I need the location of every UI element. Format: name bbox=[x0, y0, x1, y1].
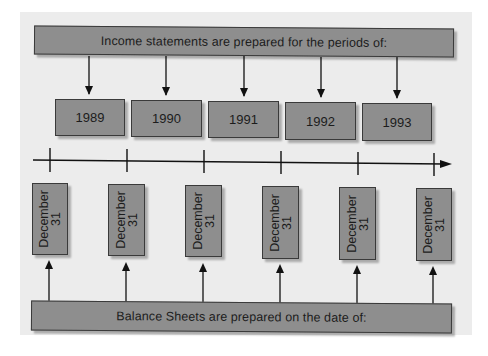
date-box-3: December31 bbox=[185, 185, 222, 257]
balance-arrows bbox=[45, 260, 437, 306]
date-box-4: December31 bbox=[262, 186, 299, 259]
income-arrows bbox=[85, 56, 401, 99]
period-label: 1991 bbox=[229, 112, 258, 127]
income-statements-label: Income statements are prepared for the p… bbox=[101, 34, 387, 50]
period-box-1990: 1990 bbox=[131, 100, 202, 137]
date-label: December31 bbox=[422, 196, 446, 254]
period-label: 1989 bbox=[76, 110, 105, 125]
period-box-1992: 1992 bbox=[285, 102, 356, 140]
date-label: December31 bbox=[38, 190, 62, 248]
period-box-1991: 1991 bbox=[208, 101, 279, 138]
balance-sheets-label: Balance Sheets are prepared on the date … bbox=[116, 309, 366, 325]
date-box-2: December31 bbox=[108, 184, 145, 256]
date-box-6: December31 bbox=[416, 188, 452, 261]
date-box-1: December31 bbox=[32, 183, 68, 255]
date-box-5: December31 bbox=[339, 187, 376, 260]
timeline-axis bbox=[33, 148, 452, 176]
period-label: 1990 bbox=[152, 111, 181, 126]
date-label: December31 bbox=[115, 191, 139, 249]
period-box-1993: 1993 bbox=[362, 103, 432, 141]
income-statements-banner: Income statements are prepared for the p… bbox=[34, 26, 454, 58]
period-box-1989: 1989 bbox=[55, 99, 125, 136]
period-label: 1992 bbox=[306, 114, 335, 129]
period-label: 1993 bbox=[383, 115, 412, 130]
date-label: December31 bbox=[269, 194, 293, 252]
date-label: December31 bbox=[192, 192, 216, 250]
balance-sheets-banner: Balance Sheets are prepared on the date … bbox=[31, 301, 452, 334]
date-label: December31 bbox=[346, 195, 370, 253]
